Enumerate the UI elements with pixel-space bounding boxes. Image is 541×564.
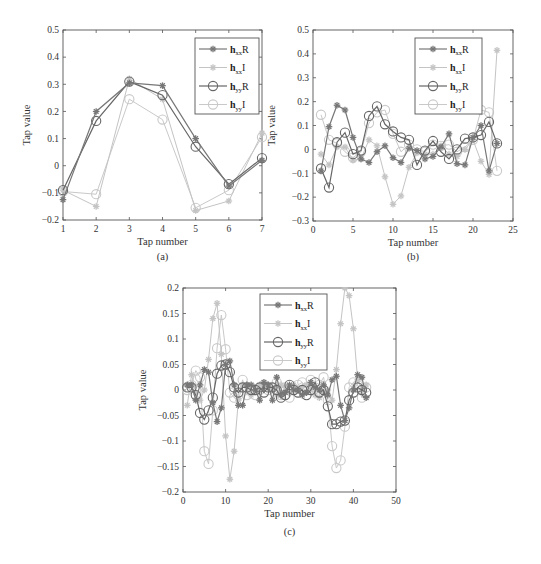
legend-star-marker-icon	[430, 46, 437, 53]
data-point-hxxI	[390, 201, 397, 208]
x-tick-label: 20	[468, 225, 478, 235]
data-point-hxxI	[382, 174, 389, 181]
x-tick-label: 50	[391, 496, 401, 506]
data-point-hxxR	[210, 399, 217, 406]
x-tick-label: 2	[94, 224, 99, 234]
data-point-hxxR	[363, 394, 370, 401]
y-tick-label: −0.2	[42, 215, 59, 225]
y-axis-label: Tap value	[266, 105, 277, 146]
data-point-hxxR	[454, 160, 461, 167]
x-tick-label: 3	[127, 224, 132, 234]
data-point-hxxR	[398, 159, 405, 166]
data-point-hxxI	[222, 433, 229, 440]
data-point-hxxR	[438, 144, 445, 151]
data-point-hxxR	[231, 382, 238, 389]
legend-label-suffix: I	[307, 355, 310, 366]
x-tick-label: 0	[181, 496, 186, 506]
legend-label-suffix: R	[462, 81, 469, 92]
y-tick-label: 0	[54, 161, 59, 171]
y-tick-label: 0	[304, 145, 309, 155]
y-tick-label: −0.1	[162, 436, 179, 446]
y-tick-label: 0.1	[297, 121, 309, 131]
x-tick-label: 15	[428, 225, 438, 235]
x-tick-label: 10	[221, 496, 231, 506]
data-point-hxxI	[406, 164, 413, 171]
data-point-hxxR	[269, 397, 276, 404]
data-point-hxxR	[318, 168, 325, 175]
legend-label-suffix: I	[242, 99, 245, 110]
x-tick-label: 1	[61, 224, 66, 234]
x-tick-label: 4	[160, 224, 165, 234]
data-point-hxxI	[494, 47, 501, 54]
y-tick-label: −0.3	[292, 216, 309, 226]
y-tick-label: −0.05	[157, 411, 179, 421]
legend-star-marker-icon	[275, 320, 282, 327]
data-point-hxxI	[259, 130, 266, 137]
data-point-hxxR	[382, 142, 389, 149]
legend-label-suffix: I	[462, 62, 465, 73]
data-point-hxxR	[358, 156, 365, 163]
data-point-hxxR	[374, 148, 381, 155]
y-tick-label: 0.5	[47, 25, 59, 35]
y-tick-label: 0.15	[162, 309, 179, 319]
data-point-hxxI	[346, 292, 353, 299]
x-tick-label: 7	[260, 224, 265, 234]
data-point-hxxI	[227, 476, 234, 483]
data-point-hxxR	[60, 196, 67, 203]
data-point-hxxR	[350, 387, 357, 394]
data-point-hxxR	[462, 162, 469, 169]
chart-panel-b: 0510152025−0.3−0.2−0.100.10.20.30.40.5Ta…	[266, 25, 518, 263]
x-tick-label: 5	[193, 224, 198, 234]
legend: hxxRhxxIhyyRhyyI	[195, 38, 259, 114]
data-point-hxxI	[342, 285, 349, 292]
data-point-hxxI	[210, 315, 217, 322]
data-point-hxxI	[226, 198, 233, 205]
chart-panel-c: 01020304050−0.2−0.15−0.1−0.0500.050.10.1…	[137, 283, 401, 538]
legend-label-suffix: R	[307, 300, 314, 311]
data-point-hxxR	[93, 108, 100, 115]
legend-label-suffix: R	[462, 44, 469, 55]
data-point-hxxI	[218, 351, 225, 358]
data-point-hxxI	[374, 142, 381, 149]
data-point-hxxI	[478, 158, 485, 165]
data-point-hxxR	[333, 373, 340, 380]
legend-label-suffix: I	[462, 99, 465, 110]
y-tick-label: 0.5	[297, 25, 309, 35]
data-point-hxxR	[326, 123, 333, 130]
data-point-hxxR	[486, 168, 493, 175]
y-tick-label: −0.2	[162, 487, 179, 497]
data-point-hxxR	[226, 183, 233, 190]
x-tick-label: 20	[263, 496, 273, 506]
x-tick-label: 40	[349, 496, 359, 506]
data-point-hxxI	[188, 371, 195, 378]
data-point-hxxR	[259, 157, 266, 164]
y-tick-label: −0.1	[292, 169, 309, 179]
data-point-hxxR	[422, 156, 429, 163]
data-point-hxxI	[93, 203, 100, 210]
data-point-hxxR	[366, 159, 373, 166]
data-point-hxxR	[342, 107, 349, 114]
legend-star-marker-icon	[210, 46, 217, 53]
legend-label-suffix: R	[307, 337, 314, 348]
data-point-hxxI	[337, 320, 344, 327]
data-point-hxxR	[470, 134, 477, 141]
x-tick-label: 0	[311, 225, 316, 235]
data-point-hxxI	[333, 366, 340, 373]
data-point-hxxI	[231, 448, 238, 455]
legend: hxxRhxxIhyyRhyyI	[260, 294, 327, 370]
x-tick-label: 30	[306, 496, 316, 506]
legend-star-marker-icon	[275, 302, 282, 309]
y-axis-label: Tap value	[137, 369, 148, 410]
y-tick-label: 0.1	[47, 134, 59, 144]
data-point-hxxI	[326, 162, 333, 169]
data-point-hxxR	[334, 102, 341, 109]
y-axis-label: Tap value	[21, 104, 32, 145]
x-axis-label: Tap number	[264, 508, 315, 519]
data-point-hxxR	[192, 135, 199, 142]
y-tick-label: −0.1	[42, 188, 59, 198]
legend: hxxRhxxIhyyRhyyI	[415, 38, 482, 114]
y-tick-label: 0.3	[47, 80, 59, 90]
legend-label-suffix: R	[242, 44, 249, 55]
data-point-hxxR	[256, 397, 263, 404]
data-point-hxxI	[462, 146, 469, 153]
